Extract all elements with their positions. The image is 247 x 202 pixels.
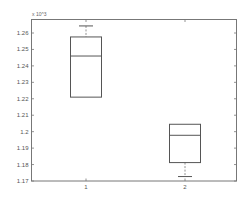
y-tick-label: 1.19: [17, 145, 29, 151]
y-tick-label: 1.22: [17, 96, 29, 102]
y-tick-label: 1.24: [17, 63, 29, 69]
box-plot-chart: x 10^3 1.171.181.191.21.211.221.231.241.…: [0, 0, 247, 202]
y-tick-label: 1.25: [17, 46, 29, 52]
y-axis: 1.171.181.191.21.211.221.231.241.251.26: [17, 30, 237, 184]
y-tick-label: 1.2: [20, 129, 29, 135]
y-tick-label: 1.21: [17, 112, 29, 118]
y-exponent-label: x 10^3: [32, 11, 47, 17]
x-axis: 12: [84, 20, 187, 191]
iqr-box: [170, 124, 201, 162]
x-tick-label: 2: [183, 184, 187, 190]
y-tick-label: 1.26: [17, 30, 29, 36]
iqr-box: [71, 37, 102, 97]
box-group-1: [71, 26, 102, 97]
box-group-2: [170, 124, 201, 176]
x-tick-label: 1: [84, 184, 88, 190]
y-tick-label: 1.18: [17, 162, 29, 168]
axes-frame: [32, 20, 237, 182]
y-tick-label: 1.17: [17, 178, 29, 184]
boxes: [71, 26, 201, 177]
y-tick-label: 1.23: [17, 79, 29, 85]
